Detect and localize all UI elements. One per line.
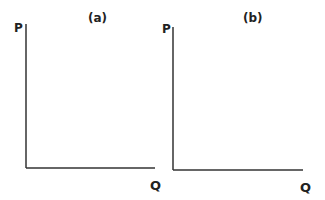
panel-b-title: (b) bbox=[243, 11, 263, 25]
panel-a: P (a) Q bbox=[14, 11, 161, 193]
panel-a-title: (a) bbox=[88, 11, 107, 25]
panel-b-x-label: Q bbox=[300, 180, 311, 195]
panel-b: P (b) Q bbox=[162, 11, 311, 195]
panel-a-y-label: P bbox=[14, 21, 23, 35]
diagram: P (a) Q P (b) Q bbox=[0, 0, 325, 200]
panel-a-x-label: Q bbox=[150, 178, 161, 193]
panel-b-y-label: P bbox=[162, 22, 171, 36]
